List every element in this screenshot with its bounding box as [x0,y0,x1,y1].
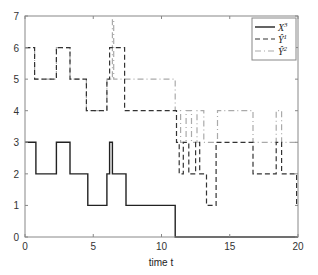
x-tick-label: 10 [156,241,168,252]
series-line-2 [25,48,298,206]
y-tick-label: 4 [13,106,19,117]
x-axis-label: time t [149,257,174,268]
x-tick-label: 0 [22,241,28,252]
series-line-1 [25,142,298,237]
y-tick-label: 5 [13,74,19,85]
y-tick-label: 3 [13,137,19,148]
x-tick-label: 5 [90,241,96,252]
y-tick-label: 0 [13,232,19,243]
x-tick-label: 15 [224,241,236,252]
step-chart: 05101520 01234567 time t X3Ŷ1Ŷ2 [0,0,318,275]
y-tick-label: 1 [13,200,19,211]
y-tick-label: 7 [13,11,19,22]
x-tick-label: 20 [292,241,304,252]
legend: X3Ŷ1Ŷ2 [252,18,296,60]
y-tick-label: 2 [13,169,19,180]
y-tick-label: 6 [13,43,19,54]
